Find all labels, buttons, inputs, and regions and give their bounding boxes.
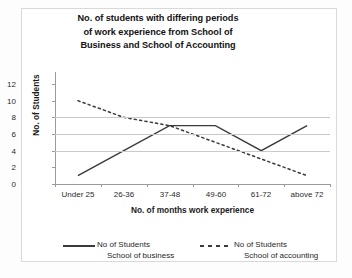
legend-label-business-line2: School of business (97, 250, 174, 261)
chart-title-line-2: of work experience from School of (30, 26, 286, 40)
x-tick-label-26-36: 26-36 (114, 190, 134, 199)
plot-area (55, 84, 330, 184)
y-tick-label-6: 6 (0, 130, 16, 139)
legend-entry-accounting: No of Students School of accounting (200, 239, 318, 261)
y-tick-label-2: 2 (0, 163, 16, 172)
chart-legend: No of Students School of business No of … (55, 239, 325, 265)
gridline-4 (55, 151, 330, 152)
series-line-accounting (78, 101, 307, 176)
y-tick-label-0: 0 (0, 180, 16, 189)
chart-title: No. of students with differing periods o… (30, 12, 286, 53)
gridline-8 (55, 117, 330, 118)
x-tick-label-49-60: 49-60 (206, 190, 226, 199)
y-tick-label-8: 8 (0, 113, 16, 122)
y-tick-label-10: 10 (0, 96, 16, 105)
legend-label-accounting-line2: School of accounting (234, 250, 318, 261)
x-axis-label: No. of months work experience (55, 205, 330, 215)
chart-title-line-3: Business and School of Accounting (30, 39, 286, 53)
x-tick-mark-4 (238, 184, 239, 187)
y-tick-label-12: 12 (0, 80, 16, 89)
x-tick-mark-5 (284, 184, 285, 187)
legend-entry-business: No of Students School of business (63, 239, 174, 261)
x-tick-mark-3 (193, 184, 194, 187)
y-axis-label: No. of Students (31, 65, 41, 145)
legend-label-accounting-line1: No of Students (234, 240, 287, 249)
legend-label-business-line1: No of Students (97, 240, 150, 249)
legend-label-accounting: No of Students School of accounting (234, 239, 318, 261)
x-tick-label-above-72: above 72 (291, 190, 324, 199)
y-tick-label-4: 4 (0, 146, 16, 155)
legend-label-business: No of Students School of business (97, 239, 174, 261)
x-tick-label-under-25: Under 25 (62, 190, 95, 199)
legend-solid-line-icon (63, 242, 95, 250)
gridline-6 (55, 134, 330, 135)
x-tick-label-61-72: 61-72 (251, 190, 271, 199)
chart-page: No. of students with differing periods o… (0, 0, 352, 278)
x-tick-mark-6 (330, 184, 331, 187)
legend-dashed-line-icon (200, 242, 232, 250)
x-tick-mark-1 (101, 184, 102, 187)
x-tick-label-37-48: 37-48 (160, 190, 180, 199)
x-tick-mark-2 (147, 184, 148, 187)
x-tick-mark-0 (55, 184, 56, 187)
chart-title-line-1: No. of students with differing periods (30, 12, 286, 26)
